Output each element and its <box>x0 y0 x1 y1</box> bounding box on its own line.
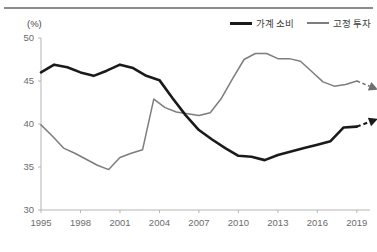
arrowhead-consumption-icon <box>368 118 377 127</box>
y-tick-label: 40 <box>23 118 34 129</box>
projection-dashed-investment <box>357 81 370 86</box>
x-tick-label: 2007 <box>188 217 209 228</box>
x-tick-label: 2013 <box>267 217 288 228</box>
x-tick-label: 2016 <box>307 217 328 228</box>
y-tick-label: 45 <box>23 75 34 86</box>
series-line-investment <box>41 53 357 169</box>
plot-svg: 3035404550 19951998200120042007201020132… <box>0 0 377 252</box>
chart-figure: (%) 가계 소비 고정 투자 3035404550 1995199820012… <box>0 0 377 252</box>
x-tick-label: 2019 <box>346 217 367 228</box>
x-tick-label: 2001 <box>109 217 130 228</box>
y-tick-label: 50 <box>23 32 34 43</box>
x-tick-label: 2010 <box>228 217 249 228</box>
axes-group <box>38 38 370 213</box>
y-tick-label: 30 <box>23 204 34 215</box>
x-tick-labels: 199519982001200420072010201320162019 <box>30 217 367 228</box>
y-tick-labels: 3035404550 <box>23 32 34 215</box>
x-tick-label: 2004 <box>149 217 170 228</box>
x-tick-label: 1995 <box>30 217 51 228</box>
series-line-consumption <box>41 65 357 160</box>
projection-dashed-consumption <box>357 122 370 127</box>
y-tick-label: 35 <box>23 161 34 172</box>
x-tick-label: 1998 <box>70 217 91 228</box>
